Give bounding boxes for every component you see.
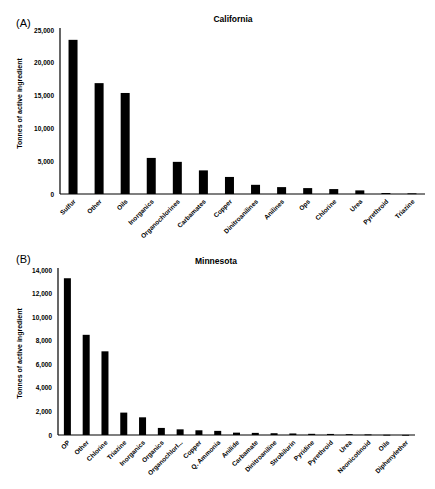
x-tick-label: OrganochlorI... bbox=[146, 439, 184, 477]
bar bbox=[233, 433, 240, 435]
bar bbox=[64, 278, 71, 435]
y-tick-label: 4,000 bbox=[36, 384, 53, 392]
y-tick-label: 8,000 bbox=[36, 337, 53, 345]
x-tick-label: OP bbox=[60, 438, 72, 450]
bar bbox=[101, 351, 108, 435]
y-tick-label: 6,000 bbox=[36, 361, 53, 369]
bar bbox=[271, 433, 278, 435]
bar bbox=[158, 428, 165, 435]
x-tick-label: Oils bbox=[377, 438, 391, 452]
bar bbox=[139, 417, 146, 435]
bar bbox=[383, 435, 390, 436]
bar bbox=[214, 431, 221, 435]
bar bbox=[289, 433, 296, 435]
bar bbox=[327, 434, 334, 435]
bar-chart-minnesota: 02,0004,0006,0008,00010,00012,00014,000O… bbox=[0, 0, 435, 489]
bar bbox=[177, 429, 184, 435]
x-tick-label: Chlorine bbox=[85, 438, 109, 462]
y-tick-label: 0 bbox=[48, 432, 52, 439]
y-tick-label: 10,000 bbox=[32, 314, 52, 322]
bar bbox=[346, 434, 353, 435]
panel-minnesota: (B) Minnesota Tonnes of active ingredien… bbox=[0, 0, 435, 489]
bar bbox=[195, 430, 202, 435]
x-tick-label: Urea bbox=[338, 438, 353, 453]
bar bbox=[120, 413, 127, 435]
bar bbox=[308, 434, 315, 435]
x-tick-label: Other bbox=[73, 438, 91, 456]
y-tick-label: 12,000 bbox=[32, 290, 52, 298]
bar bbox=[365, 434, 372, 435]
y-tick-label: 14,000 bbox=[32, 267, 52, 275]
y-tick-label: 2,000 bbox=[36, 408, 53, 416]
bar bbox=[402, 435, 409, 436]
bar bbox=[252, 433, 259, 435]
bar bbox=[83, 335, 90, 435]
